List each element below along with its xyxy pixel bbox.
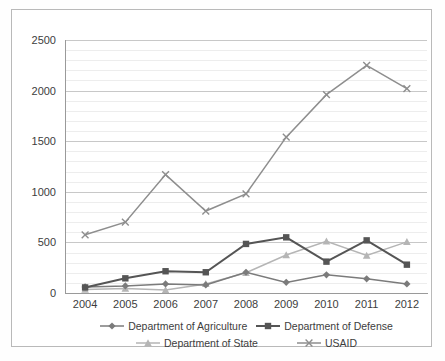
legend-row: Department of StateUSAID xyxy=(65,334,427,351)
series-line xyxy=(85,241,407,290)
square-marker-icon xyxy=(255,320,281,332)
legend-label: Department of Defense xyxy=(284,320,393,332)
y-axis-tick-label: 1500 xyxy=(32,135,56,147)
data-point-marker xyxy=(283,134,290,141)
legend-label: USAID xyxy=(325,337,357,349)
y-axis-labels: 05001000150020002500 xyxy=(12,40,60,293)
legend-label: Department of State xyxy=(164,337,258,349)
x-axis-labels: 200420052006200720082009201020112012 xyxy=(65,298,427,316)
y-axis-line xyxy=(65,40,66,294)
x-axis-tick-label: 2008 xyxy=(234,298,258,310)
y-axis-tick-label: 2500 xyxy=(32,34,56,46)
legend-label: Department of Agriculture xyxy=(128,320,247,332)
x-axis-tick-label: 2004 xyxy=(73,298,97,310)
data-point-marker xyxy=(202,208,209,215)
plot-area xyxy=(65,40,427,293)
x-axis-tick-label: 2012 xyxy=(395,298,419,310)
y-axis-tick-label: 500 xyxy=(38,236,56,248)
data-point-marker xyxy=(162,280,169,287)
data-point-marker xyxy=(82,284,88,290)
y-axis-tick-label: 1000 xyxy=(32,186,56,198)
x-marker-icon xyxy=(296,337,322,349)
data-point-marker xyxy=(265,322,271,328)
data-point-marker xyxy=(404,261,410,267)
legend-marker xyxy=(255,320,281,332)
series-department-of-defense xyxy=(82,234,410,290)
legend-row: Department of AgricultureDepartment of D… xyxy=(65,317,427,334)
data-point-marker xyxy=(403,238,411,245)
triangle-marker-icon xyxy=(135,337,161,349)
x-axis-line xyxy=(65,293,428,294)
data-point-marker xyxy=(363,275,370,282)
diamond-marker-icon xyxy=(99,320,125,332)
x-axis-tick-label: 2007 xyxy=(194,298,218,310)
legend-marker xyxy=(135,337,161,349)
data-point-marker xyxy=(323,91,330,98)
data-point-marker xyxy=(323,271,330,278)
legend-item-department-of-defense[interactable]: Department of Defense xyxy=(255,320,393,332)
y-axis-tick-label: 0 xyxy=(50,287,56,299)
data-point-marker xyxy=(162,171,169,178)
data-point-marker xyxy=(323,258,329,264)
data-point-marker xyxy=(243,190,250,197)
legend-item-usaid[interactable]: USAID xyxy=(296,337,357,349)
series-usaid xyxy=(82,62,411,238)
data-point-marker xyxy=(403,85,410,92)
legend-marker xyxy=(99,320,125,332)
y-axis-tick-label: 2000 xyxy=(32,85,56,97)
data-point-marker xyxy=(162,268,168,274)
x-axis-tick-label: 2009 xyxy=(274,298,298,310)
data-point-marker xyxy=(243,241,249,247)
data-point-marker xyxy=(323,238,331,245)
chart-frame: 05001000150020002500 2004200520062007200… xyxy=(11,9,432,347)
legend-marker xyxy=(296,337,322,349)
data-point-marker xyxy=(122,275,128,281)
data-point-marker xyxy=(363,62,370,69)
series-line xyxy=(85,65,407,235)
data-point-marker xyxy=(363,237,369,243)
x-axis-tick-label: 2011 xyxy=(355,298,379,310)
x-axis-tick-label: 2006 xyxy=(153,298,177,310)
legend-item-department-of-state[interactable]: Department of State xyxy=(135,337,258,349)
x-axis-tick-label: 2010 xyxy=(314,298,338,310)
chart-container: 05001000150020002500 2004200520062007200… xyxy=(0,0,445,361)
data-point-marker xyxy=(403,280,410,287)
data-point-marker xyxy=(203,269,209,275)
data-point-marker xyxy=(202,281,209,288)
data-point-marker xyxy=(283,279,290,286)
data-point-marker xyxy=(109,322,116,329)
data-point-marker xyxy=(283,234,289,240)
chart-legend: Department of AgricultureDepartment of D… xyxy=(65,317,427,351)
legend-item-department-of-agriculture[interactable]: Department of Agriculture xyxy=(99,320,247,332)
series-department-of-agriculture xyxy=(82,269,411,291)
x-axis-tick-label: 2005 xyxy=(113,298,137,310)
series-lines xyxy=(65,40,427,293)
